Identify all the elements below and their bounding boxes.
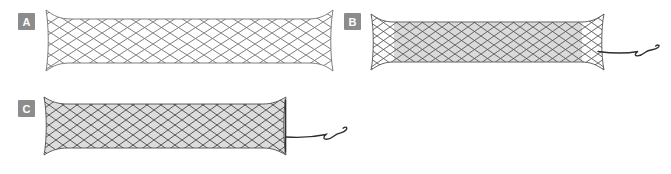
stent-illustrations	[0, 0, 671, 174]
panel-label-a: A	[18, 13, 35, 30]
panel-label-b: B	[344, 13, 361, 30]
stent-c-retrieval-string	[286, 127, 347, 139]
stent-b-retrieval-string	[598, 45, 659, 56]
stent-c-fully-covered	[42, 95, 347, 158]
stent-b-partially-covered	[369, 12, 659, 73]
stent-a-uncovered	[44, 8, 336, 73]
figure-canvas: A B C	[0, 0, 671, 174]
stent-b-mesh	[369, 12, 607, 73]
panel-label-c: C	[18, 100, 35, 117]
